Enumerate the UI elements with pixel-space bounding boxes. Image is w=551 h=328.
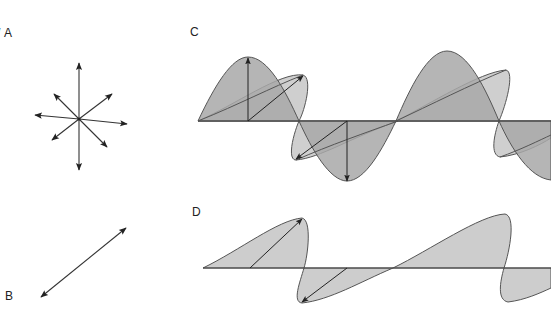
arrow-down-right-icon xyxy=(79,119,107,147)
arrow-down-left-icon xyxy=(52,119,79,140)
polarization-diagram xyxy=(0,0,551,328)
panel-c-unpolarized-wave xyxy=(198,51,551,181)
panel-d-polarized-wave xyxy=(203,214,551,303)
polarized-lobe-1 xyxy=(203,218,308,268)
arrow-up-left-icon xyxy=(54,94,79,119)
polarized-lobe-2 xyxy=(297,268,393,303)
arrow-left-icon xyxy=(35,115,79,119)
arrow-right-icon xyxy=(79,119,127,124)
arrow-up-right-icon xyxy=(79,94,112,119)
panel-a-unpolarized-star xyxy=(35,63,127,170)
polarized-lobe-3 xyxy=(393,214,511,268)
double-arrow-icon xyxy=(41,228,126,297)
polarized-lobe-4 xyxy=(500,268,551,302)
panel-b-polarized-vector xyxy=(41,228,126,297)
